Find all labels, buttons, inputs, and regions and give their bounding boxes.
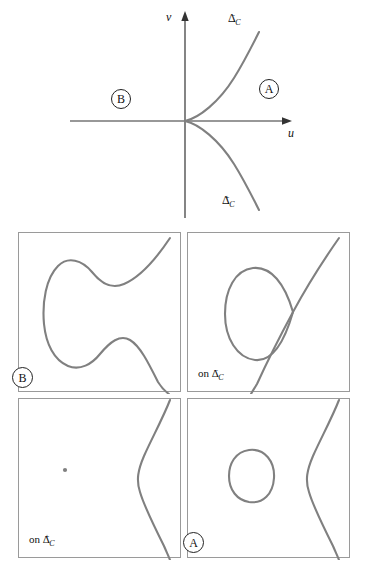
top-diagram-canvas bbox=[0, 0, 368, 228]
v-axis bbox=[181, 11, 188, 218]
delta-subscript-c: C bbox=[235, 18, 240, 27]
panel-delta-minus-tag: on Δ−C bbox=[198, 367, 224, 382]
panel-tag-prefix: on bbox=[198, 367, 212, 379]
panel-b-canvas bbox=[18, 232, 183, 394]
panel-on-delta-minus: on Δ−C bbox=[187, 232, 350, 392]
panel-delta-plus-tag: on Δ+C bbox=[29, 533, 55, 548]
figure-bifurcation-diagram: v u Δ−C Δ+C A B B on Δ bbox=[0, 0, 368, 569]
u-axis bbox=[70, 117, 292, 124]
curve-delta-minus bbox=[185, 32, 259, 121]
panel-region-b: B bbox=[18, 232, 181, 392]
top-bifurcation-diagram: v u Δ−C Δ+C A B bbox=[0, 0, 368, 228]
curve-label-delta-minus: Δ−C bbox=[228, 12, 241, 27]
delta-subscript-c: C bbox=[218, 373, 223, 382]
panel-b-left-branch bbox=[44, 238, 170, 394]
panel-a-branch bbox=[307, 400, 339, 560]
delta-subscript-c: C bbox=[229, 200, 234, 209]
panel-a-tag: A bbox=[183, 532, 204, 553]
curve-label-delta-plus: Δ+C bbox=[222, 194, 235, 209]
region-label-b: B bbox=[111, 89, 131, 109]
panel-delta-plus-isolated-point bbox=[63, 468, 67, 472]
delta-subscript-c: C bbox=[49, 539, 54, 548]
panel-delta-plus-branch bbox=[138, 400, 170, 560]
panel-grid: B on Δ−C on Δ+C bbox=[0, 228, 368, 569]
region-label-a: A bbox=[259, 79, 279, 99]
panel-a-oval bbox=[229, 450, 274, 502]
panel-delta-minus-loop bbox=[225, 268, 293, 360]
u-axis-label: u bbox=[288, 127, 294, 139]
panel-delta-minus-diagonal bbox=[251, 238, 339, 394]
panel-b-tag: B bbox=[12, 367, 33, 388]
panel-on-delta-plus: on Δ+C bbox=[18, 398, 181, 558]
panel-a-canvas bbox=[187, 398, 352, 560]
v-axis-label: v bbox=[166, 11, 171, 23]
panel-region-a: A bbox=[187, 398, 350, 558]
panel-tag-prefix: on bbox=[29, 533, 43, 545]
